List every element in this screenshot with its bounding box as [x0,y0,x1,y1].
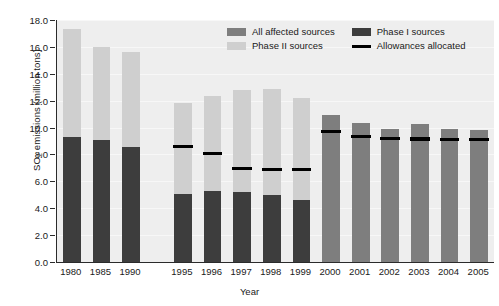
bar-group [174,20,192,262]
allowance-marker [380,137,400,140]
y-tick-label: 12.0 [14,95,48,106]
bar-group [93,20,111,262]
bar-segment-all-affected [470,130,488,262]
allowance-marker [262,168,282,171]
y-tick-mark [50,208,55,209]
x-tick-label: 1998 [260,266,281,277]
bar-group [470,20,488,262]
y-tick-mark [50,235,55,236]
bar-group [122,20,140,262]
legend-swatch-phase-1-icon [352,28,371,36]
y-tick-label: 16.0 [14,41,48,52]
allowance-marker [292,168,312,171]
plot-area [56,20,494,262]
chart-legend: All affected sourcesPhase I sourcesPhase… [227,26,465,51]
bar-group [441,20,459,262]
bar-group [233,20,251,262]
x-axis-line [56,262,494,263]
legend-entry: Allowances allocated [352,40,466,51]
allowance-marker [440,138,460,141]
y-axis-tick-labels: 18.016.014.012.010.08.06.04.02.00.0 [14,0,48,306]
x-tick-label: 1997 [231,266,252,277]
y-tick-mark [50,101,55,102]
x-tick-label: 1999 [290,266,311,277]
y-tick-label: 4.0 [14,203,48,214]
legend-swatch-all-affected-icon [227,28,246,36]
bar-segment-phase-1 [174,194,192,262]
y-tick-label: 8.0 [14,149,48,160]
allowance-marker [203,152,223,155]
y-tick-mark [50,128,55,129]
bar-group [322,20,340,262]
allowance-marker [321,130,341,133]
bar-segment-phase-1 [122,147,140,262]
y-tick-mark [50,262,55,263]
y-tick-mark [50,181,55,182]
bar-group [204,20,222,262]
y-tick-label: 14.0 [14,68,48,79]
bar-segment-phase-1 [63,137,81,262]
y-tick-label: 18.0 [14,15,48,26]
bar-group [293,20,311,262]
x-tick-label: 1985 [90,266,111,277]
allowance-marker [469,138,489,141]
y-tick-mark [50,74,55,75]
x-tick-label: 1995 [171,266,192,277]
x-tick-label: 2000 [319,266,340,277]
x-tick-label: 1990 [119,266,140,277]
x-axis-title: Year [0,286,499,297]
legend-entry: Phase II sources [227,40,335,51]
x-tick-label: 2004 [438,266,459,277]
bar-segment-all-affected [411,124,429,262]
allowance-marker [173,145,193,148]
bar-group [63,20,81,262]
bar-segment-all-affected [352,123,370,262]
bar-segment-phase-1 [204,191,222,262]
bar-group [411,20,429,262]
so2-emissions-bar-chart: SO2 emissions (million tons) 18.016.014.… [0,0,499,306]
legend-label: Allowances allocated [377,40,466,51]
y-tick-mark [50,47,55,48]
allowance-marker [410,137,430,140]
y-tick-mark [50,20,55,21]
bar-group [381,20,399,262]
bar-segment-all-affected [441,129,459,262]
allowance-marker [351,135,371,138]
y-tick-label: 2.0 [14,230,48,241]
x-tick-label: 1980 [60,266,81,277]
y-tick-label: 0.0 [14,257,48,268]
x-tick-label: 2003 [408,266,429,277]
x-tick-label: 1996 [201,266,222,277]
bar-segment-phase-1 [293,200,311,262]
legend-entry: Phase I sources [352,26,466,37]
bar-group [263,20,281,262]
bar-segment-all-affected [322,115,340,262]
bar-segment-all-affected [381,129,399,262]
legend-label: Phase I sources [377,26,445,37]
x-tick-label: 2005 [468,266,489,277]
allowance-marker [232,167,252,170]
legend-swatch-allowance-line-icon [352,42,371,50]
bar-segment-phase-1 [233,192,251,262]
bar-segment-phase-1 [93,140,111,262]
y-tick-label: 6.0 [14,176,48,187]
legend-label: All affected sources [252,26,335,37]
x-tick-label: 2001 [349,266,370,277]
legend-label: Phase II sources [252,40,323,51]
x-tick-label: 2002 [379,266,400,277]
y-tick-mark [50,154,55,155]
bar-segment-phase-1 [263,195,281,262]
legend-swatch-phase-2-icon [227,42,246,50]
y-tick-label: 10.0 [14,122,48,133]
bar-group [352,20,370,262]
legend-entry: All affected sources [227,26,335,37]
